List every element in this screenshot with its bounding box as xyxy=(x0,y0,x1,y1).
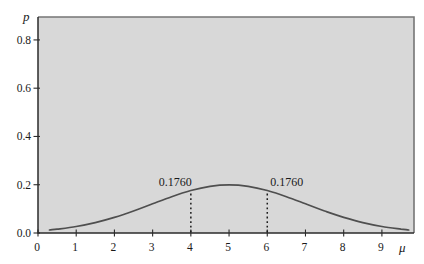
x-tick-label: 6 xyxy=(263,241,269,253)
y-tick-label: 0.8 xyxy=(17,34,32,46)
x-tick-label: 7 xyxy=(302,241,308,253)
x-tick-label: 0 xyxy=(34,241,40,253)
y-tick-label: 0.2 xyxy=(17,179,32,191)
y-tick-label: 0.4 xyxy=(17,130,32,142)
y-axis-title: p xyxy=(23,10,30,23)
annotation-value-label: 0.1760 xyxy=(270,175,303,189)
plot-area xyxy=(38,17,414,233)
annotation-value-label: 0.1760 xyxy=(159,175,192,189)
x-axis-title: μ xyxy=(399,241,406,254)
x-tick-label: 5 xyxy=(225,241,231,253)
y-tick-label: 0.0 xyxy=(17,227,32,239)
x-tick-label: 4 xyxy=(187,241,193,253)
plot-canvas: 01234567890.00.20.40.60.80.17600.1760 xyxy=(0,0,424,264)
x-tick-label: 2 xyxy=(111,241,117,253)
x-tick-label: 8 xyxy=(340,241,346,253)
y-tick-label: 0.6 xyxy=(17,82,32,94)
x-tick-label: 9 xyxy=(378,241,384,253)
distribution-chart: 01234567890.00.20.40.60.80.17600.1760 p … xyxy=(0,0,424,264)
x-tick-label: 1 xyxy=(72,241,78,253)
x-tick-label: 3 xyxy=(149,241,155,253)
